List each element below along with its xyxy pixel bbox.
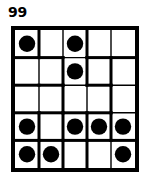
grid-cell[interactable] bbox=[39, 85, 63, 113]
grid-cell[interactable] bbox=[63, 140, 87, 168]
grid-cell[interactable] bbox=[111, 85, 135, 113]
grid-cell[interactable] bbox=[87, 140, 111, 168]
grid-cell[interactable] bbox=[87, 58, 111, 86]
grid-dot[interactable] bbox=[43, 146, 59, 162]
grid-cell[interactable] bbox=[15, 58, 39, 86]
figure-number-label: 99 bbox=[8, 4, 27, 20]
grid-cell[interactable] bbox=[111, 58, 135, 86]
grid-dot[interactable] bbox=[67, 63, 83, 79]
grid-cell[interactable] bbox=[39, 113, 63, 141]
grid-dot[interactable] bbox=[115, 146, 131, 162]
grid-cell[interactable] bbox=[87, 85, 111, 113]
grid-dot[interactable] bbox=[19, 36, 35, 52]
grid-dot[interactable] bbox=[19, 146, 35, 162]
puzzle-figure: 99 bbox=[0, 0, 149, 184]
grid-cell[interactable] bbox=[87, 30, 111, 58]
grid-dot[interactable] bbox=[67, 118, 83, 134]
puzzle-grid[interactable] bbox=[11, 26, 139, 172]
grid-dot[interactable] bbox=[67, 36, 83, 52]
grid-cell[interactable] bbox=[111, 30, 135, 58]
grid-cell[interactable] bbox=[39, 58, 63, 86]
grid-cell[interactable] bbox=[15, 85, 39, 113]
puzzle-grid-svg bbox=[11, 26, 139, 172]
grid-cell[interactable] bbox=[63, 85, 87, 113]
grid-dot[interactable] bbox=[19, 118, 35, 134]
grid-dot[interactable] bbox=[115, 118, 131, 134]
grid-cell[interactable] bbox=[39, 30, 63, 58]
grid-dot[interactable] bbox=[91, 118, 107, 134]
